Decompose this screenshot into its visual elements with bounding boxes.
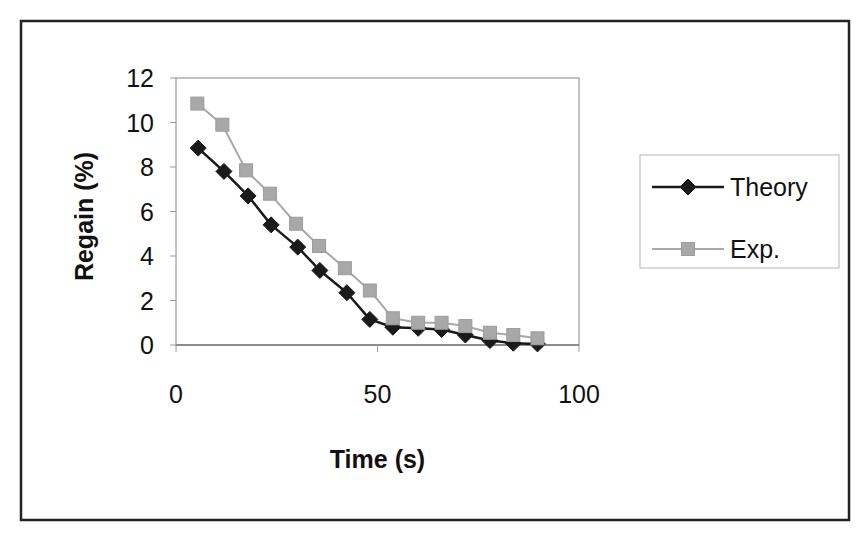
plot-area <box>176 78 579 345</box>
x-axis-label: Time (s) <box>330 445 425 473</box>
square-marker <box>363 284 376 297</box>
x-tick-label: 50 <box>364 380 392 408</box>
square-marker <box>386 312 399 325</box>
y-tick-label: 8 <box>140 153 154 181</box>
square-marker <box>290 217 303 230</box>
square-marker <box>459 320 472 333</box>
y-tick-label: 2 <box>140 287 154 315</box>
square-marker <box>191 97 204 110</box>
square-marker <box>531 332 544 345</box>
x-tick-label: 0 <box>169 380 183 408</box>
y-axis-label: Regain (%) <box>70 152 98 281</box>
y-tick-label: 0 <box>140 331 154 359</box>
square-marker <box>483 326 496 339</box>
square-marker <box>313 239 326 252</box>
square-marker <box>240 164 253 177</box>
square-marker <box>435 316 448 329</box>
square-marker <box>263 187 276 200</box>
y-tick-label: 4 <box>140 242 154 270</box>
legend-square-icon <box>682 243 695 256</box>
square-marker <box>338 262 351 275</box>
x-tick-label: 100 <box>558 380 600 408</box>
line-chart: 024681012 050100 Regain (%) Time (s) The… <box>0 0 867 543</box>
y-tick-label: 6 <box>140 198 154 226</box>
legend-label: Theory <box>730 173 808 201</box>
square-marker <box>412 316 425 329</box>
y-tick-label: 12 <box>126 64 154 92</box>
square-marker <box>216 118 229 131</box>
legend: TheoryExp. <box>640 155 839 268</box>
y-tick-label: 10 <box>126 109 154 137</box>
chart-container: 024681012 050100 Regain (%) Time (s) The… <box>0 0 867 543</box>
square-marker <box>507 328 520 341</box>
legend-label: Exp. <box>730 235 780 263</box>
